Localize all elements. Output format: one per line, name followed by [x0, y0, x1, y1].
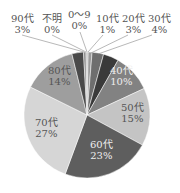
leader-line-20 — [91, 35, 128, 53]
leader-line-90 — [22, 35, 84, 52]
label-70s: 70代 27% — [35, 117, 58, 139]
leader-line-unknown — [52, 35, 86, 52]
label-10s-name: 10代 — [96, 13, 119, 24]
label-10s: 10代 1% — [96, 13, 119, 35]
label-80s: 80代 14% — [48, 65, 71, 87]
label-90s-pct: 3% — [11, 24, 34, 35]
label-40s: 40代 10% — [110, 65, 133, 87]
label-50s-pct: 15% — [121, 113, 144, 124]
label-20s: 20代 3% — [122, 13, 145, 35]
leader-line-10 — [88, 35, 103, 52]
label-30s-pct: 4% — [148, 24, 171, 35]
label-90s: 90代 3% — [11, 13, 34, 35]
leader-line-30 — [98, 35, 152, 54]
label-20s-pct: 3% — [122, 24, 145, 35]
label-70s-name: 70代 — [35, 117, 58, 128]
label-30s: 30代 4% — [148, 13, 171, 35]
label-unknown-pct: 0% — [42, 24, 62, 35]
label-80s-name: 80代 — [48, 65, 71, 76]
label-unknown-name: 不明 — [42, 13, 62, 24]
label-40s-name: 40代 — [110, 65, 133, 76]
label-0-9-pct: 0% — [68, 20, 91, 31]
label-90s-name: 90代 — [11, 13, 34, 24]
label-60s-pct: 23% — [90, 150, 113, 161]
label-10s-pct: 1% — [96, 24, 119, 35]
label-30s-name: 30代 — [148, 13, 171, 24]
label-60s-name: 60代 — [90, 139, 113, 150]
label-80s-pct: 14% — [48, 76, 71, 87]
leader-line-0 — [80, 32, 87, 52]
label-20s-name: 20代 — [122, 13, 145, 24]
label-50s: 50代 15% — [121, 102, 144, 124]
label-0-9-name: 0～9 — [68, 9, 91, 20]
label-70s-pct: 27% — [35, 128, 58, 139]
label-unknown: 不明 0% — [42, 13, 62, 35]
label-40s-pct: 10% — [110, 76, 133, 87]
label-0-9: 0～9 0% — [68, 9, 91, 31]
leader-lines — [22, 32, 152, 54]
label-50s-name: 50代 — [121, 102, 144, 113]
label-60s: 60代 23% — [90, 139, 113, 161]
